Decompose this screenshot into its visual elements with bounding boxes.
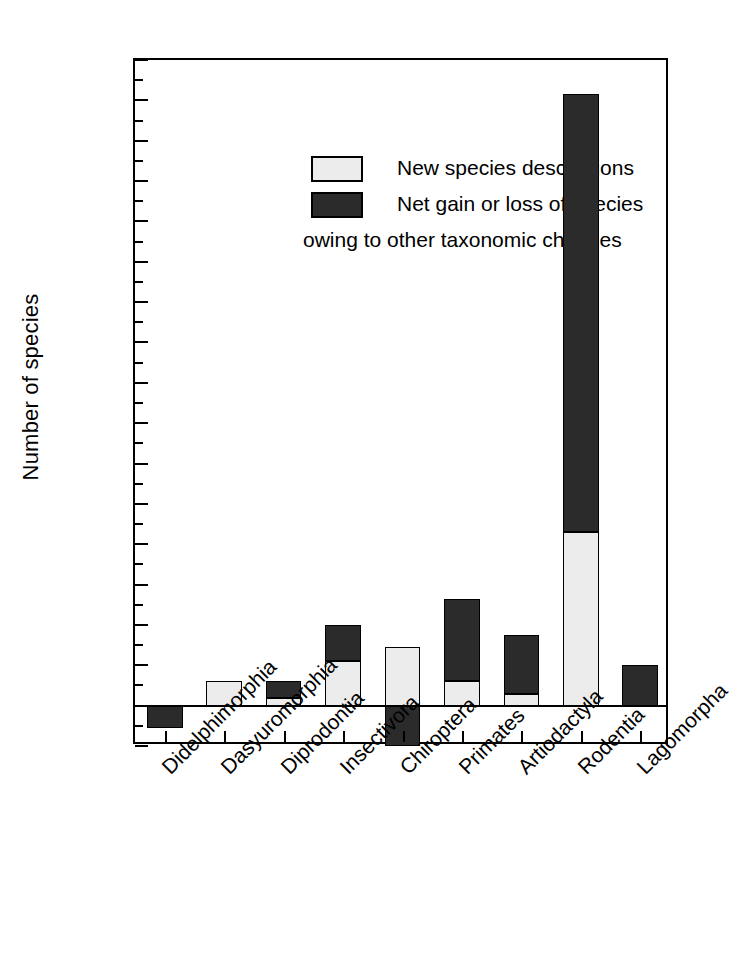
bar-didelphimorphia bbox=[147, 60, 183, 746]
x-axis-tick bbox=[521, 731, 523, 742]
bar-primates bbox=[444, 60, 480, 746]
bar-segment-new-species bbox=[504, 694, 540, 706]
y-axis-tick bbox=[135, 160, 143, 162]
bar-segment-net-gain-loss bbox=[504, 635, 540, 694]
y-axis-tick bbox=[135, 604, 143, 606]
y-axis-tick bbox=[135, 362, 143, 364]
bar-rodentia bbox=[563, 60, 599, 746]
y-axis-tick bbox=[135, 79, 143, 81]
bar-segment-net-gain-loss bbox=[147, 706, 183, 728]
y-axis-tick bbox=[135, 523, 143, 525]
y-axis-tick bbox=[135, 120, 143, 122]
y-axis-tick bbox=[135, 563, 143, 565]
x-axis-tick bbox=[581, 731, 583, 742]
bar-segment-net-gain-loss bbox=[563, 94, 599, 532]
x-axis-tick bbox=[403, 731, 405, 742]
y-axis-tick bbox=[135, 442, 143, 444]
y-axis-tick bbox=[135, 644, 143, 646]
x-axis-tick bbox=[224, 731, 226, 742]
x-axis-tick bbox=[343, 731, 345, 742]
y-axis-title: Number of species bbox=[18, 257, 44, 517]
bar-segment-new-species bbox=[563, 532, 599, 706]
bar-segment-net-gain-loss bbox=[325, 625, 361, 661]
y-axis-tick bbox=[135, 402, 143, 404]
bar-dasyuromorphia bbox=[206, 60, 242, 746]
y-axis-tick bbox=[135, 483, 143, 485]
bar-segment-net-gain-loss bbox=[444, 599, 480, 682]
y-axis-tick bbox=[135, 321, 143, 323]
y-axis-tick bbox=[135, 241, 143, 243]
y-axis-tick bbox=[135, 725, 143, 727]
bar-chiroptera bbox=[385, 60, 421, 746]
y-axis-tick bbox=[135, 684, 143, 686]
y-axis-tick bbox=[135, 200, 143, 202]
bar-diprodontia bbox=[266, 60, 302, 746]
y-axis-tick bbox=[135, 281, 143, 283]
x-axis-tick bbox=[462, 731, 464, 742]
bar-insectivora bbox=[325, 60, 361, 746]
bar-lagomorpha bbox=[622, 60, 658, 746]
bar-segment-net-gain-loss bbox=[622, 665, 658, 705]
plot-area: New species descriptions Net gain or los… bbox=[133, 58, 668, 744]
x-axis-tick bbox=[640, 731, 642, 742]
x-axis-tick bbox=[165, 731, 167, 742]
x-axis-tick bbox=[284, 731, 286, 742]
bar-artiodactyla bbox=[504, 60, 540, 746]
